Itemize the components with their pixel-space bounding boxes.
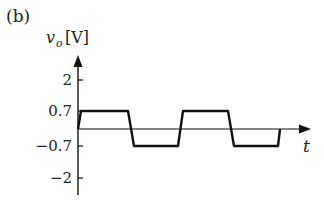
panel-label: (b) [6, 6, 30, 26]
x-axis-arrow-icon [299, 125, 311, 134]
y-axis-label-unit: [V] [65, 28, 89, 47]
ytick-neg-0.7: −0.7 [36, 137, 72, 155]
x-axis-label: t [303, 136, 310, 156]
chart: (b) v o [V] 2 0.7 −0.7 −2 t [0, 0, 324, 201]
y-axis-arrow-icon [74, 55, 83, 67]
y-axis-label-var: v [46, 28, 55, 47]
ytick-neg-2: −2 [50, 169, 72, 187]
x-axis [78, 125, 311, 134]
ytick-0.7: 0.7 [48, 102, 72, 120]
y-axis-label-sub: o [56, 37, 63, 50]
ytick-2: 2 [62, 71, 72, 89]
